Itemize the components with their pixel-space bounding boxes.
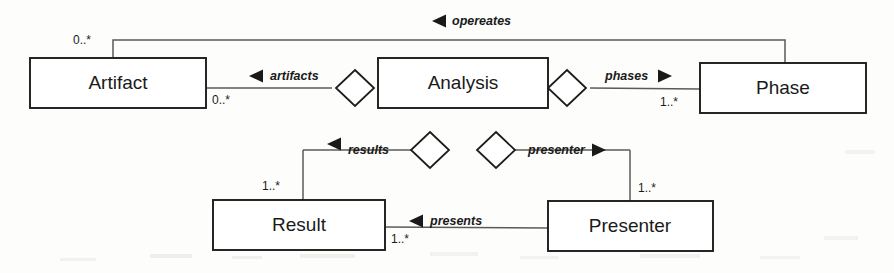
phases-aggregation-diamond — [548, 70, 586, 106]
presenter-multiplicity-presenter: 1..* — [638, 181, 656, 195]
association-opereates[interactable]: opereates 0..* — [73, 14, 785, 63]
presenter-class-name: Presenter — [589, 215, 672, 236]
results-multiplicity-result: 1..* — [262, 179, 280, 193]
opereates-multiplicity-artifact: 0..* — [73, 33, 91, 47]
presents-multiplicity-result: 1..* — [391, 232, 409, 246]
results-aggregation-diamond — [411, 132, 449, 168]
presenter-arrow-icon — [592, 144, 606, 157]
phases-arrow-icon — [658, 70, 672, 83]
result-class-name: Result — [272, 214, 327, 235]
uml-class-diagram: opereates 0..* artifacts 0..* phases 1..… — [0, 0, 894, 273]
opereates-arrow-icon — [432, 15, 446, 28]
class-box-phase[interactable]: Phase — [700, 63, 866, 113]
association-phases[interactable]: phases 1..* — [548, 69, 700, 109]
phases-role-label: phases — [604, 69, 648, 83]
presents-role-label: presents — [429, 214, 482, 228]
class-box-artifact[interactable]: Artifact — [30, 58, 206, 108]
class-box-result[interactable]: Result — [213, 200, 385, 250]
association-results[interactable]: results 1..* — [262, 132, 449, 200]
results-arrow-icon — [327, 138, 341, 151]
phases-multiplicity-phase: 1..* — [660, 95, 678, 109]
class-box-presenter[interactable]: Presenter — [548, 201, 713, 251]
presenter-aggregation-diamond — [477, 132, 515, 168]
scan-artifacts — [60, 150, 875, 261]
results-role-label: results — [348, 143, 389, 157]
class-box-analysis[interactable]: Analysis — [378, 58, 548, 108]
phases-connector-line — [590, 88, 700, 89]
opereates-role-label: opereates — [452, 14, 511, 28]
artifacts-aggregation-diamond — [336, 70, 374, 106]
artifacts-multiplicity-artifact: 0..* — [212, 93, 230, 107]
association-presenter[interactable]: presenter 1..* — [477, 132, 656, 201]
diagram-canvas: opereates 0..* artifacts 0..* phases 1..… — [0, 0, 894, 273]
artifacts-arrow-icon — [249, 70, 263, 83]
association-presents[interactable]: presents 1..* — [385, 214, 548, 246]
artifact-class-name: Artifact — [88, 72, 148, 93]
analysis-class-name: Analysis — [428, 72, 499, 93]
presents-arrow-icon — [409, 215, 423, 228]
association-artifacts[interactable]: artifacts 0..* — [206, 69, 374, 107]
artifacts-role-label: artifacts — [270, 69, 319, 83]
presenter-role-label: presenter — [527, 143, 586, 157]
phase-class-name: Phase — [756, 77, 810, 98]
